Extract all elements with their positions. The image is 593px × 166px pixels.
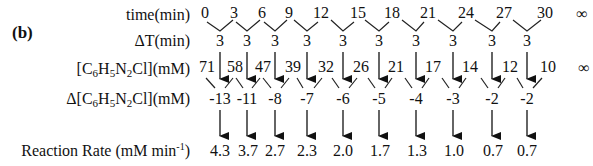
delta-t-down-arrows — [220, 52, 527, 79]
rate-down-arrows — [220, 110, 527, 136]
flow-connectors — [0, 0, 593, 166]
concentration-v-connectors — [206, 78, 542, 88]
time-bracket-connectors — [207, 20, 541, 31]
